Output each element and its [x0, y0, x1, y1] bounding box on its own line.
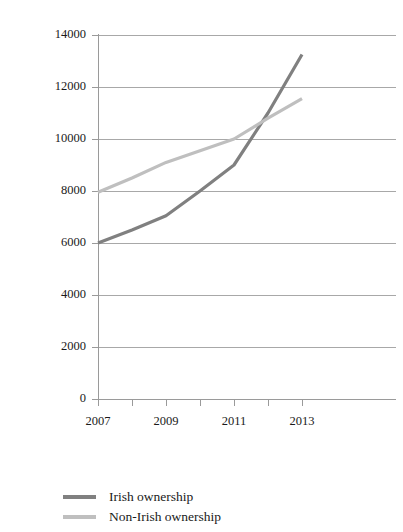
- y-tick-label: 6000: [61, 235, 86, 249]
- y-axis-labels: 02000400060008000100001200014000: [55, 27, 86, 405]
- legend-label-irish-ownership: Irish ownership: [109, 490, 193, 504]
- x-axis-labels: 2007200920112013: [86, 414, 315, 428]
- line-chart-figure: 02000400060008000100001200014000 2007200…: [0, 0, 403, 532]
- x-tick-label: 2011: [222, 414, 247, 428]
- y-tick-label: 8000: [61, 183, 86, 197]
- y-axis-tickmarks: [92, 36, 98, 400]
- series-line-irish-ownership: [98, 55, 302, 244]
- legend-swatch-non-irish-ownership: [63, 515, 96, 519]
- y-tick-label: 10000: [55, 131, 86, 145]
- y-tick-label: 12000: [55, 79, 86, 93]
- x-tick-label: 2007: [86, 414, 111, 428]
- y-tick-label: 14000: [55, 27, 86, 41]
- y-tick-label: 0: [80, 391, 86, 405]
- legend-swatch-irish-ownership: [63, 495, 96, 499]
- series-line-non-irish-ownership: [98, 99, 302, 193]
- y-tick-label: 4000: [61, 287, 86, 301]
- x-axis-tickmarks: [99, 399, 303, 406]
- gridlines-group: [98, 36, 396, 348]
- legend-label-non-irish-ownership: Non-Irish ownership: [109, 510, 221, 524]
- plot-area: 02000400060008000100001200014000 2007200…: [0, 0, 403, 470]
- y-tick-label: 2000: [61, 339, 86, 353]
- x-tick-label: 2009: [154, 414, 179, 428]
- legend-item-non-irish-ownership: Non-Irish ownership: [63, 507, 383, 527]
- x-tick-label: 2013: [290, 414, 315, 428]
- legend-item-irish-ownership: Irish ownership: [63, 487, 383, 507]
- chart-legend: Irish ownership Non-Irish ownership: [63, 487, 383, 527]
- data-series-group: [98, 55, 302, 244]
